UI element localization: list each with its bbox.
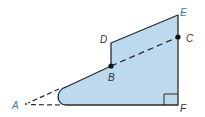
label-c: C (186, 33, 194, 44)
label-b: B (108, 72, 115, 83)
diagram-svg: A B C D E F (0, 0, 205, 117)
label-a: A (11, 100, 19, 111)
point-b-dot (108, 63, 113, 68)
label-d: D (100, 34, 107, 45)
label-f: F (180, 103, 187, 114)
point-a-dot (25, 103, 27, 105)
point-c-dot (175, 34, 180, 39)
dashed-line-a-lower (29, 105, 60, 106)
shaded-region (58, 15, 178, 105)
dashed-line-a-upper (28, 89, 59, 103)
label-e: E (180, 7, 187, 18)
geometry-diagram: A B C D E F (0, 0, 205, 117)
